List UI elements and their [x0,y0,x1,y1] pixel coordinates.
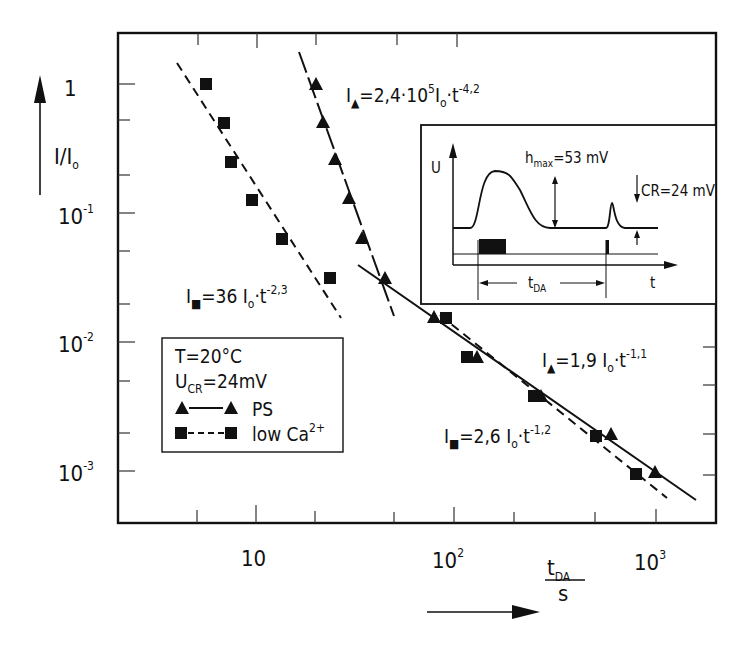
x-tick-labels: 10 102 103 [241,546,666,575]
y-tick-labels: 1 10-1 10-2 10-3 [58,76,94,486]
square-marker-icon [225,427,237,439]
svg-text:1: 1 [64,76,77,101]
fit-line-lowca-early [177,63,341,318]
svg-text:102: 102 [432,546,464,573]
equation-lowca-late: I■=2,6 Io·t-1,2 [444,423,551,451]
svg-text:103: 103 [634,548,666,575]
inset-schematic: U t hmax=53 mV CR=24 mV tDA [421,125,716,304]
cr-label: CR=24 mV [641,182,716,200]
legend: T=20°C UCR=24mV PS low Ca2+ [162,338,343,452]
square-marker-icon [175,427,187,439]
y-axis-label: I/Io [54,144,79,172]
svg-text:10-2: 10-2 [58,330,94,357]
equation-ps-late: I▲=1,9 Io·t-1,1 [542,347,647,375]
y-axis-arrow-icon [34,75,46,195]
svg-text:10: 10 [241,546,266,571]
x-axis-arrow-icon [427,605,540,619]
svg-text:PS: PS [252,398,273,420]
x-axis-denominator: s [558,581,568,606]
svg-text:U: U [431,159,441,177]
svg-text:10-1: 10-1 [58,202,94,229]
chart-canvas: I/Io 1 10-1 [0,0,753,651]
svg-text:10-3: 10-3 [58,459,94,486]
legend-temperature: T=20°C [174,345,242,367]
stimulus-block [479,239,506,254]
equation-lowca-early: I■=36 Io·t-2,3 [186,283,288,311]
svg-text:t: t [650,274,655,292]
equation-ps-early: I▲=2,4·105Io·t-4,2 [346,82,480,110]
